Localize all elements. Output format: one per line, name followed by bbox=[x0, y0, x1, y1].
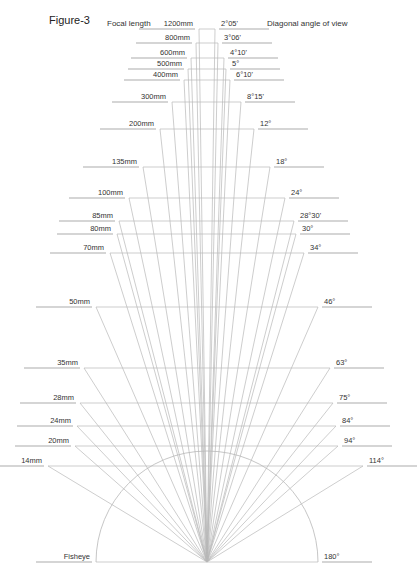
focal-length-label: 50mm bbox=[69, 297, 90, 306]
focal-length-label: 80mm bbox=[90, 224, 111, 233]
angle-label: 5° bbox=[232, 59, 239, 68]
focal-length-label: 20mm bbox=[48, 436, 69, 445]
angle-of-view-diagram: 1200mm2°05'800mm3°06'600mm4°10'500mm5°40… bbox=[0, 0, 420, 578]
angle-label: 3°06' bbox=[224, 33, 242, 42]
angle-label: 84° bbox=[342, 416, 353, 425]
focal-length-label: 85mm bbox=[92, 211, 113, 220]
angle-label: 2°05' bbox=[221, 19, 239, 28]
ray-right bbox=[207, 426, 336, 562]
focal-length-label: 400mm bbox=[153, 70, 178, 79]
angle-label: 18° bbox=[276, 157, 287, 166]
ray-right bbox=[207, 403, 333, 562]
ray-left bbox=[196, 43, 207, 562]
focal-length-label: 300mm bbox=[141, 92, 166, 101]
focal-length-label: 14mm bbox=[21, 456, 42, 465]
ray-left bbox=[84, 368, 207, 562]
angle-label: 63° bbox=[336, 358, 347, 367]
diagram-labels: 1200mm2°05'800mm3°06'600mm4°10'500mm5°40… bbox=[21, 19, 384, 561]
angle-label: 75° bbox=[339, 393, 350, 402]
ray-left bbox=[110, 253, 207, 562]
focal-length-label: 600mm bbox=[160, 48, 185, 57]
angle-label: 8°15' bbox=[247, 92, 265, 101]
focal-length-label: 1200mm bbox=[164, 19, 193, 28]
focal-length-label: 24mm bbox=[50, 416, 71, 425]
angle-label: 12° bbox=[260, 119, 271, 128]
angle-label: 28°30' bbox=[300, 211, 322, 220]
angle-label: 114° bbox=[369, 456, 384, 465]
ray-right bbox=[207, 368, 330, 562]
angle-label: 24° bbox=[291, 188, 302, 197]
ray-right bbox=[207, 253, 304, 562]
focal-length-label: 70mm bbox=[83, 243, 104, 252]
ray-left bbox=[80, 403, 207, 562]
angle-label: 6°10' bbox=[236, 70, 254, 79]
angle-label: 180° bbox=[324, 552, 340, 561]
focal-length-label: 135mm bbox=[112, 157, 137, 166]
focal-length-label: Fisheye bbox=[64, 552, 90, 561]
focal-length-label: 200mm bbox=[129, 119, 154, 128]
ray-right bbox=[207, 466, 363, 562]
angle-label: 4°10' bbox=[230, 48, 248, 57]
focal-length-label: 800mm bbox=[165, 33, 190, 42]
diagram-lines bbox=[0, 29, 417, 562]
ray-right bbox=[207, 446, 338, 562]
ray-left bbox=[48, 466, 207, 562]
focal-length-label: 35mm bbox=[57, 358, 78, 367]
angle-label: 94° bbox=[344, 436, 355, 445]
focal-length-label: 100mm bbox=[98, 188, 123, 197]
angle-label: 46° bbox=[324, 297, 335, 306]
focal-length-label: 28mm bbox=[53, 393, 74, 402]
angle-label: 30° bbox=[302, 224, 313, 233]
ray-left bbox=[77, 426, 207, 562]
ray-left bbox=[75, 446, 207, 562]
focal-length-label: 500mm bbox=[157, 59, 182, 68]
angle-label: 34° bbox=[310, 243, 321, 252]
